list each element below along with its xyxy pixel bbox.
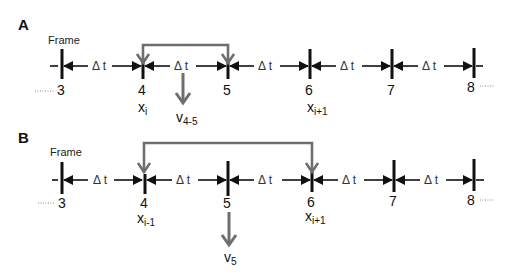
frame-number: 5 (223, 82, 231, 98)
interval-label: Δ t (258, 59, 273, 73)
interval-label: Δ t (174, 59, 189, 73)
interval-label: Δ t (342, 173, 357, 187)
interval-label: Δ t (424, 173, 439, 187)
frame-number: 4 (138, 82, 146, 98)
frame-number: 6 (305, 82, 313, 98)
frame-number: 8 (467, 79, 475, 95)
panel-a: A Frame (18, 16, 495, 127)
frame-number: 3 (58, 195, 66, 211)
interval-label: Δ t (93, 173, 108, 187)
position-label-xi: xi (138, 99, 147, 117)
position-label-xi-1: xi-1 (137, 210, 156, 228)
panel-label-b: B (18, 129, 29, 146)
interval-label: Δ t (92, 59, 107, 73)
frame-label-b: Frame (50, 146, 82, 158)
position-label-xi+1: xi+1 (307, 99, 328, 117)
frame-number: 4 (140, 195, 148, 211)
frame-number: 7 (387, 82, 395, 98)
frame-number: 7 (389, 193, 397, 209)
velocity-label-b: v5 (224, 249, 237, 267)
panel-label-a: A (18, 16, 29, 33)
frame-number: 3 (57, 82, 65, 98)
interval-label: Δ t (258, 173, 273, 187)
velocity-label-a: v4-5 (176, 109, 198, 127)
interval-label: Δ t (176, 173, 191, 187)
interval-label: Δ t (422, 59, 437, 73)
panel-b: B Frame Δ t Δ t Δ t Δ t Δ t (18, 129, 495, 267)
frame-label-a: Frame (48, 34, 80, 46)
frame-timing-diagram: A Frame (0, 0, 511, 276)
frame-number: 8 (467, 192, 475, 208)
frame-number: 5 (223, 195, 231, 211)
position-label-xi+1: xi+1 (305, 208, 326, 226)
interval-label: Δ t (340, 59, 355, 73)
